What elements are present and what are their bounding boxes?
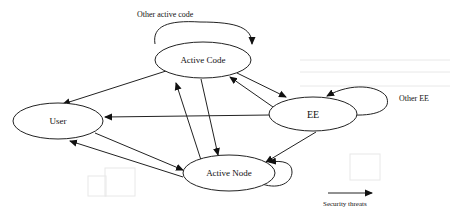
edge-ee-to-active-node — [266, 132, 316, 162]
edge-ee-to-user — [105, 115, 270, 117]
node-active-code: Active Code — [155, 42, 251, 78]
edge-user-to-active-node — [95, 133, 183, 170]
node-label: User — [50, 116, 67, 126]
node-label: EE — [307, 109, 319, 120]
security-threat-diagram: Active Code User EE Active Node Other ac… — [0, 0, 452, 218]
label-other-active-code: Other active code — [137, 10, 194, 19]
edge-ee-to-active-code — [230, 77, 273, 107]
node-user: User — [13, 103, 103, 139]
legend: Security threats — [323, 193, 372, 208]
edge-active-code-to-ee — [237, 73, 286, 97]
node-label: Active Node — [206, 168, 252, 178]
self-loop-active-code — [155, 22, 252, 44]
node-label: Active Code — [180, 55, 225, 65]
node-ee: EE — [269, 97, 357, 131]
edge-active-node-to-active-code — [176, 83, 201, 160]
legend-label: Security threats — [323, 200, 367, 208]
node-active-node: Active Node — [183, 155, 275, 191]
edge-active-code-to-active-node — [201, 79, 218, 155]
edge-active-code-to-user — [63, 71, 166, 104]
label-other-ee: Other EE — [399, 94, 429, 103]
